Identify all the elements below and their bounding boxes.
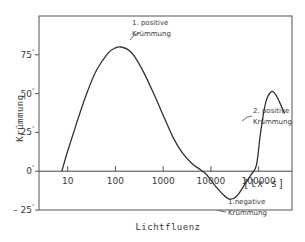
y-tick-degree: °	[32, 48, 35, 54]
y-tick-degree: °	[32, 125, 35, 131]
annotation: 2. positiveKrümmung	[242, 107, 292, 126]
y-tick-degree: °	[32, 87, 35, 93]
annotation-line2: Krümmung	[228, 209, 267, 217]
y-tick-degree: °	[32, 164, 35, 170]
annotation-line1: 1.negative	[228, 198, 265, 206]
y-tick-label: – 25	[13, 205, 32, 215]
y-tick-degree: °	[32, 203, 35, 209]
y-axis-title: Krümmung	[15, 94, 25, 141]
x-tick-label: 10	[62, 176, 74, 186]
annotation: 1. positiveKrümmung	[130, 19, 171, 40]
y-tick-label: 75	[21, 50, 32, 60]
chart: 10100100010000100000 – 25°0°25°50°75° 1.…	[0, 0, 305, 242]
annotation-leader	[242, 116, 252, 121]
annotation-line2: Krümmung	[132, 30, 171, 38]
annotation-line2: Krümmung	[253, 118, 292, 126]
x-tick-label: 100	[107, 176, 124, 186]
x-axis-title: Lichtfluenz	[135, 222, 200, 232]
x-axis-unit: [lx·s]	[243, 178, 285, 189]
annotation-line1: 2. positive	[253, 107, 289, 115]
annotation-line1: 1. positive	[132, 19, 168, 27]
annotation: 1.negativeKrümmung	[218, 198, 267, 217]
x-tick-label: 1000	[152, 176, 175, 186]
